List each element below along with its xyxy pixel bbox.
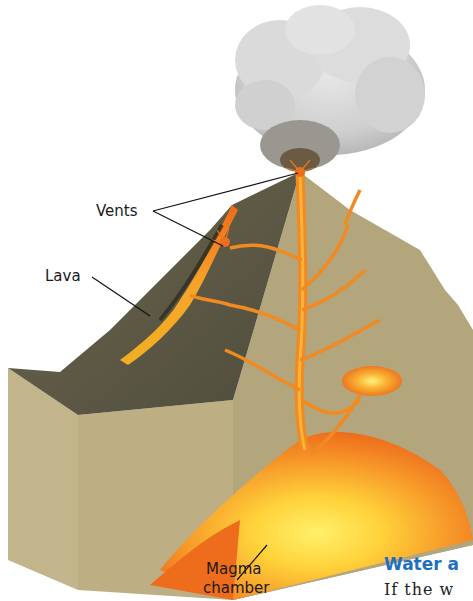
ash-cloud [235, 5, 425, 172]
volcano-illustration [0, 0, 473, 601]
label-magma-line2: chamber [203, 579, 269, 597]
section-heading: Water a [384, 554, 459, 574]
label-magma-line1: Magma [206, 560, 261, 578]
volcano-diagram: Vents Lava Magma chamber Water a If the … [0, 0, 473, 601]
magma-pocket [342, 366, 402, 396]
label-lava: Lava [45, 267, 81, 285]
body-text-fragment: If the w [384, 580, 454, 599]
label-vents: Vents [96, 202, 138, 220]
